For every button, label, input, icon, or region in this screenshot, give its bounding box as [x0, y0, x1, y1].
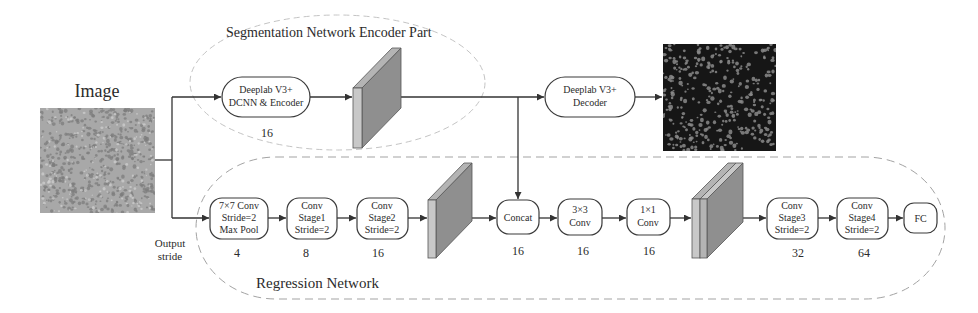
svg-text:Stride=2: Stride=2: [775, 224, 810, 235]
svg-text:Conv: Conv: [851, 200, 873, 211]
conv7x7-block: 7×7 Conv Stride=2 Max Pool: [210, 198, 268, 239]
svg-text:Decoder: Decoder: [573, 97, 608, 108]
svg-text:Stride=2: Stride=2: [365, 224, 400, 235]
concatenated-feature-map: [692, 163, 743, 258]
segmentation-output-image: [662, 43, 778, 153]
svg-text:Stage1: Stage1: [298, 212, 325, 223]
stride-value-concat: 16: [512, 244, 524, 258]
svg-text:Conv: Conv: [637, 217, 659, 228]
svg-text:1×1: 1×1: [640, 204, 656, 215]
svg-text:Conv: Conv: [781, 200, 803, 211]
conv-stage2-block: Conv Stage2 Stride=2: [357, 198, 408, 239]
svg-text:Concat: Concat: [504, 212, 533, 223]
architecture-diagram: Segmentation Network Encoder Part Regres…: [0, 0, 978, 313]
svg-text:Conv: Conv: [301, 200, 323, 211]
svg-text:Conv: Conv: [569, 217, 591, 228]
svg-text:Stage3: Stage3: [778, 212, 805, 223]
svg-text:Stage2: Stage2: [368, 212, 395, 223]
stride-value-stage2: 16: [372, 246, 384, 260]
regression-feature-map: [428, 163, 472, 258]
svg-text:Stride=2: Stride=2: [222, 212, 257, 223]
stride-value-conv3x3: 16: [577, 244, 589, 258]
encoder-stride-value: 16: [261, 126, 273, 140]
svg-text:Stage4: Stage4: [848, 212, 875, 223]
stride-value-stage1: 8: [303, 246, 309, 260]
svg-text:FC: FC: [914, 213, 927, 224]
svg-text:Conv: Conv: [371, 200, 393, 211]
deeplab-decoder-block: Deeplab V3+ Decoder: [545, 77, 635, 117]
segmentation-region-title: Segmentation Network Encoder Part: [226, 25, 432, 40]
stride-value-conv1x1: 16: [643, 244, 655, 258]
conv1x1-block: 1×1 Conv: [627, 199, 670, 235]
concat-block: Concat: [497, 200, 539, 234]
input-image-label: Image: [75, 81, 120, 101]
conv-stage4-block: Conv Stage4 Stride=2: [837, 198, 888, 239]
stride-value-stage4: 64: [858, 246, 870, 260]
svg-text:7×7 Conv: 7×7 Conv: [219, 200, 259, 211]
svg-text:Max Pool: Max Pool: [219, 224, 258, 235]
encoder-feature-map: [353, 48, 401, 148]
svg-text:Stride=2: Stride=2: [845, 224, 880, 235]
conv-stage3-block: Conv Stage3 Stride=2: [767, 198, 818, 239]
stride-value-stage3: 32: [792, 246, 804, 260]
input-histology-image: [39, 107, 156, 215]
stride-value-conv7x7: 4: [234, 246, 240, 260]
svg-text:3×3: 3×3: [572, 204, 588, 215]
output-stride-label-2: stride: [158, 250, 183, 262]
deeplab-encoder-block: Deeplab V3+ DCNN & Encoder: [222, 77, 310, 117]
output-stride-label: Output: [155, 237, 186, 249]
fc-block: FC: [904, 203, 937, 233]
conv-stage1-block: Conv Stage1 Stride=2: [287, 198, 337, 239]
svg-text:DCNN & Encoder: DCNN & Encoder: [229, 97, 304, 108]
regression-region-title: Regression Network: [256, 275, 379, 291]
conv3x3-block: 3×3 Conv: [558, 199, 602, 235]
svg-text:Stride=2: Stride=2: [295, 224, 330, 235]
svg-text:Deeplab V3+: Deeplab V3+: [239, 84, 293, 95]
svg-text:Deeplab V3+: Deeplab V3+: [563, 84, 617, 95]
